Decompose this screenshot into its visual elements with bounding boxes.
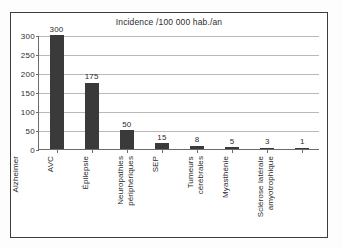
x-tick-mark	[162, 149, 163, 153]
y-tick-mark	[36, 150, 39, 151]
y-tick-label: 0	[30, 146, 35, 155]
bar-slot: 300	[39, 36, 74, 149]
bar-slot: 8	[180, 36, 215, 149]
y-tick-label: 300	[21, 32, 35, 41]
x-tick-mark	[57, 149, 58, 153]
bar-value-label: 300	[50, 25, 64, 34]
x-tick-mark	[267, 149, 268, 153]
bar-value-label: 8	[195, 135, 200, 144]
x-tick-mark	[302, 149, 303, 153]
bar-value-label: 175	[85, 72, 99, 81]
bar-slot: 175	[74, 36, 109, 149]
bar-value-label: 15	[157, 133, 166, 142]
y-tick-label: 150	[21, 89, 35, 98]
bar-value-label: 50	[122, 120, 131, 129]
y-tick-label: 200	[21, 70, 35, 79]
x-tick-mark	[232, 149, 233, 153]
bar-slot: 1	[285, 36, 320, 149]
bar-slot: 5	[215, 36, 250, 149]
bar-value-label: 5	[230, 137, 235, 146]
bar-slot: 3	[250, 36, 285, 149]
x-tick-mark	[197, 149, 198, 153]
plot-area: 050100150200250300 30017550158531	[38, 36, 319, 150]
bar[interactable]	[120, 130, 134, 149]
bar-slot: 15	[144, 36, 179, 149]
chart-frame: Incidence /100 000 hab./an 0501001502002…	[10, 12, 328, 238]
x-axis-label: Sclérose latérale amyotrophique	[256, 156, 342, 217]
y-tick-label: 100	[21, 108, 35, 117]
bar-value-label: 1	[300, 137, 305, 146]
y-tick-label: 50	[26, 127, 36, 136]
bar-value-label: 3	[265, 137, 270, 146]
y-tick-label: 250	[21, 51, 35, 60]
x-tick-mark	[92, 149, 93, 153]
x-tick-mark	[127, 149, 128, 153]
chart-screenshot: Incidence /100 000 hab./an 0501001502002…	[0, 0, 342, 249]
bar[interactable]	[50, 35, 64, 149]
bar[interactable]	[85, 83, 99, 150]
bar-slot: 50	[109, 36, 144, 149]
